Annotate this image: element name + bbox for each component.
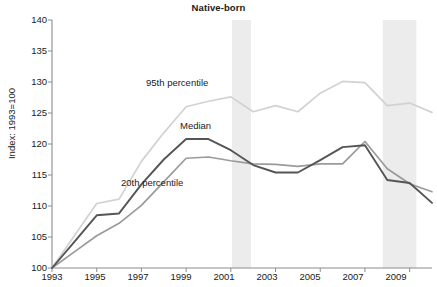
- recession-bands: [232, 20, 416, 268]
- series-label-95th: 95th percentile: [146, 77, 208, 88]
- plot-area: [0, 0, 437, 287]
- recession-band-2008: [383, 20, 417, 268]
- recession-band-2001: [232, 20, 251, 268]
- chart-container: Native-born Index: 1993=100 140 135 130 …: [0, 0, 437, 287]
- series-label-median: Median: [180, 120, 211, 131]
- series-label-20th: 20th percentile: [121, 177, 183, 188]
